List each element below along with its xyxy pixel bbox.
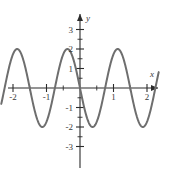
x-tick-label: 1 [111, 93, 116, 102]
y-tick-label: 2 [69, 45, 74, 54]
y-tick-label: 3 [69, 25, 74, 34]
y-tick-label: 1 [69, 64, 74, 73]
y-tick-label: -2 [66, 123, 74, 132]
x-tick-label: -1 [43, 93, 51, 102]
y-tick-label: -3 [66, 142, 74, 151]
y-axis-label: y [86, 14, 90, 23]
sine-curve-plot [0, 0, 170, 175]
graph-figure: x y -2-112-3-2-1123 [0, 0, 170, 175]
y-axis-arrow-icon [77, 14, 83, 21]
y-tick-label: -1 [66, 103, 74, 112]
x-axis-label: x [150, 70, 154, 79]
x-tick-label: -2 [9, 93, 17, 102]
x-tick-label: 2 [145, 93, 150, 102]
